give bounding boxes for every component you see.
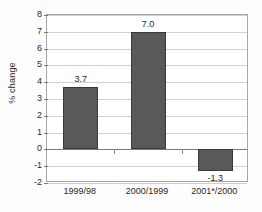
y-axis-tick-mark: [44, 99, 48, 100]
y-axis-tick-label: 1: [24, 127, 42, 137]
y-axis-tick-mark: [44, 15, 48, 16]
y-axis-tick-label: 5: [24, 59, 42, 69]
y-axis-tick-label: -2: [24, 177, 42, 187]
y-axis-tick-mark: [44, 133, 48, 134]
x-axis-category-label: 2001*/2000: [191, 186, 237, 196]
y-axis-tick-label: 2: [24, 110, 42, 120]
y-axis-tick-label: 8: [24, 9, 42, 19]
bar: [131, 32, 166, 150]
y-axis-tick-mark: [44, 32, 48, 33]
bar-value-label: 7.0: [142, 19, 155, 29]
bar-chart: % change 876543210-1-2 3.77.0-1.3 1999/9…: [0, 0, 262, 212]
y-axis-tick-labels: 876543210-1-2: [24, 14, 42, 182]
y-axis-tick-mark: [44, 82, 48, 83]
y-axis-title: % change: [7, 47, 17, 119]
y-axis-tick-label: 6: [24, 43, 42, 53]
y-axis-tick-label: 4: [24, 76, 42, 86]
y-axis-tick-mark: [44, 49, 48, 50]
y-axis-tick-label: 0: [24, 143, 42, 153]
y-axis-tick-mark: [44, 149, 48, 150]
x-axis-category-label: 1999/98: [63, 186, 96, 196]
y-axis-tick-mark: [44, 166, 48, 167]
y-axis-tick-label: 3: [24, 93, 42, 103]
x-axis-category-label: 2000/1999: [126, 186, 169, 196]
gridline: [47, 15, 247, 16]
bar-value-label: -1.3: [208, 173, 224, 183]
y-axis-tick-label: 7: [24, 26, 42, 36]
bar-value-label: 3.7: [74, 74, 87, 84]
bar: [63, 87, 98, 149]
plot-area: 3.77.0-1.3: [46, 14, 248, 182]
bar: [198, 149, 233, 171]
x-axis-tick-mark: [114, 149, 115, 154]
x-axis-tick-mark: [182, 149, 183, 154]
y-axis-tick-label: -1: [24, 160, 42, 170]
y-axis-tick-mark: [44, 65, 48, 66]
y-axis-tick-mark: [44, 183, 48, 184]
y-axis-tick-mark: [44, 116, 48, 117]
x-axis-category-labels: 1999/982000/19992001*/2000: [46, 186, 248, 202]
